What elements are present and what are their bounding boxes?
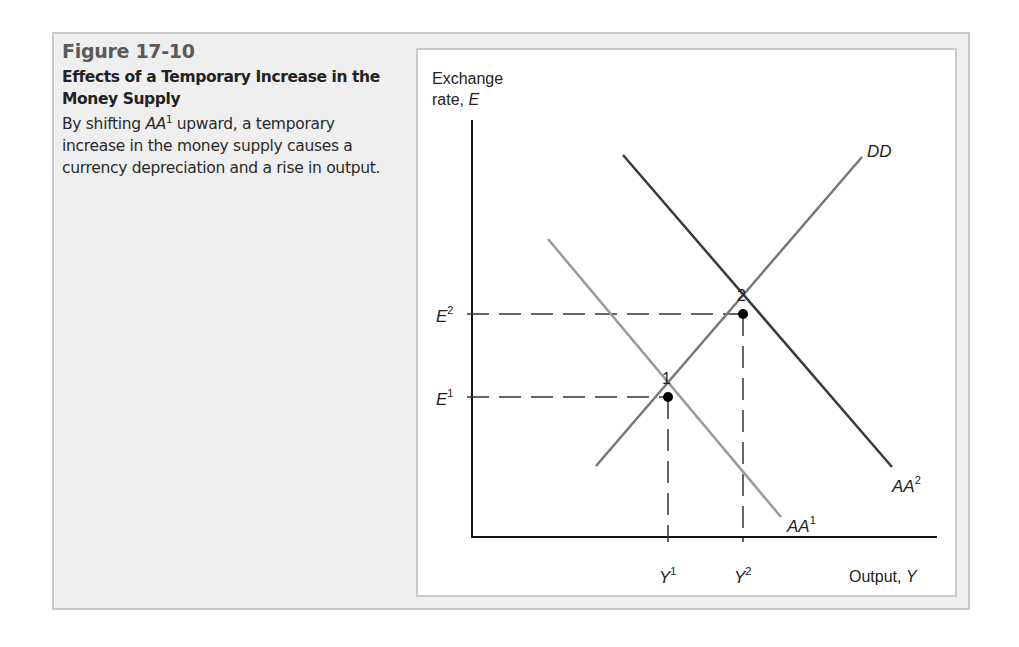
aa1-label: AA1 <box>786 514 816 536</box>
e2-tick-label: E2 <box>436 304 453 326</box>
dd-curve <box>596 157 862 466</box>
aa2-curve <box>623 155 892 467</box>
dd-label: DD <box>867 142 892 161</box>
point-2-label: 2 <box>737 287 746 304</box>
dd-aa-chart: Exchange rate, E Output, Y 1 2 E2 E1 Y1 … <box>0 0 1019 647</box>
aa2-label: AA2 <box>891 474 921 496</box>
y-axis-label-line1: Exchange <box>432 70 503 87</box>
y-axis-label-line2: rate, E <box>432 91 479 108</box>
point-1-label: 1 <box>662 370 671 387</box>
equilibrium-point-1 <box>663 392 673 402</box>
equilibrium-point-2 <box>738 309 748 319</box>
x-axis-label: Output, Y <box>849 568 918 585</box>
e1-tick-label: E1 <box>436 387 453 409</box>
y2-tick-label: Y2 <box>734 565 751 587</box>
y1-tick-label: Y1 <box>659 565 676 587</box>
